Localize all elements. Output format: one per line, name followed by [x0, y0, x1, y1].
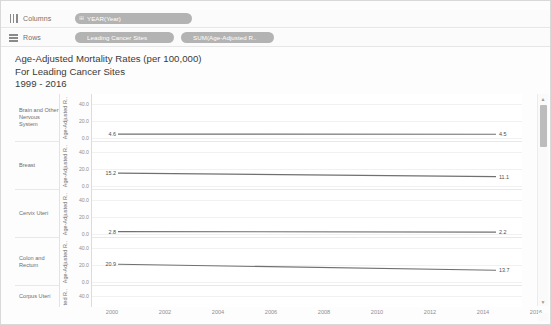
- pane-brain[interactable]: 4.6 4.5: [92, 94, 522, 142]
- row-header-breast[interactable]: Breast: [15, 142, 59, 190]
- row-header-brain-label: Brain and Other Nervous System: [19, 107, 59, 128]
- columns-shelf[interactable]: Columns ⊞ YEAR(Year): [1, 10, 550, 28]
- title-line-2: For Leading Cancer Sites: [15, 66, 202, 79]
- scrollbar-corner: [538, 313, 548, 321]
- data-label-brain-end: 4.5: [499, 131, 507, 137]
- x-tick-2012: 2012: [424, 309, 436, 315]
- y-axis-title-colon: Age-Adjusted R..: [59, 238, 71, 286]
- x-tick-2006: 2006: [265, 309, 277, 315]
- y-tick-corpus-40: 40.0: [79, 293, 89, 299]
- y-tick-breast-0: 0.0: [82, 183, 89, 189]
- chart-area: Brain and Other Nervous System Breast Ce…: [15, 94, 537, 307]
- rows-icon: [9, 33, 18, 42]
- data-label-brain-start: 4.6: [94, 131, 116, 137]
- y-axis-title-cervix: Age-Adjusted R..: [59, 190, 71, 238]
- columns-icon: [9, 14, 18, 23]
- pill-expand-icon: ⊞: [79, 13, 84, 24]
- pane-breast[interactable]: 15.2 11.1: [92, 142, 522, 190]
- line-series-cervix: [92, 190, 522, 238]
- rows-shelf-label: Rows: [23, 34, 75, 41]
- x-tick-2010: 2010: [371, 309, 383, 315]
- data-label-breast-start: 15.2: [92, 170, 116, 176]
- x-tick-2000: 2000: [106, 309, 118, 315]
- row-header-cervix-label: Cervix Uteri: [19, 210, 48, 217]
- line-series-breast: [92, 142, 522, 190]
- row-header-colon-label: Colon and Rectum: [19, 255, 59, 269]
- y-tick-cervix-0: 0.0: [82, 231, 89, 237]
- x-tick-2004: 2004: [212, 309, 224, 315]
- pane-corpus[interactable]: [92, 286, 522, 307]
- row-header-breast-label: Breast: [19, 162, 35, 169]
- y-axis-title-cervix-label: Age-Adjusted R..: [62, 193, 68, 235]
- chart-panes: 4.6 4.5 15.2 11.1 2.8: [91, 94, 522, 307]
- rows-shelf[interactable]: Rows Leading Cancer Sites SUM(Age-Adjust…: [1, 29, 550, 47]
- pane-cervix[interactable]: 2.8 2.2: [92, 190, 522, 238]
- y-tick-breast-40: 40.0: [79, 149, 89, 155]
- pill-year-label: YEAR(Year): [87, 15, 121, 22]
- y-axis-title-corpus-label: ted R..: [62, 288, 68, 305]
- row-header-cervix[interactable]: Cervix Uteri: [15, 190, 59, 238]
- y-tick-cervix-20: 20.0: [79, 214, 89, 220]
- y-tick-breast-20: 20.0: [79, 166, 89, 172]
- vertical-scrollbar[interactable]: ▲ ▼: [537, 94, 548, 306]
- y-tick-brain-0: 0.0: [82, 135, 89, 141]
- y-axis-titles: Age-Adjusted R.. Age-Adjusted R.. Age-Ad…: [59, 94, 71, 307]
- y-axis-title-corpus: ted R..: [59, 286, 71, 307]
- gridline: [92, 296, 522, 297]
- pill-year[interactable]: ⊞ YEAR(Year): [75, 13, 192, 24]
- pill-leading-cancer-sites[interactable]: Leading Cancer Sites: [75, 32, 174, 43]
- data-label-colon-end: 13.7: [499, 267, 510, 273]
- title-line-3: 1999 - 2016: [15, 78, 202, 91]
- row-headers: Brain and Other Nervous System Breast Ce…: [15, 94, 60, 307]
- y-tick-colon-0: 0.0: [82, 279, 89, 285]
- pill-leading-cancer-sites-label: Leading Cancer Sites: [87, 34, 147, 41]
- row-header-corpus-label: Corpus Uteri: [19, 293, 50, 300]
- y-tick-colon-20: 20.0: [79, 262, 89, 268]
- x-tick-2008: 2008: [318, 309, 330, 315]
- pane-colon[interactable]: 20.9 13.7: [92, 238, 522, 286]
- row-header-corpus[interactable]: Corpus Uteri: [15, 286, 59, 307]
- line-series-brain: [92, 94, 522, 142]
- x-tick-2014: 2014: [477, 309, 489, 315]
- row-header-brain[interactable]: Brain and Other Nervous System: [15, 94, 59, 142]
- data-label-colon-start: 20.9: [92, 261, 116, 267]
- y-axis-title-colon-label: Age-Adjusted R..: [62, 241, 68, 283]
- y-tick-brain-40: 40.0: [79, 101, 89, 107]
- y-axis-title-breast: Age-Adjusted R..: [59, 142, 71, 190]
- line-series-colon: [92, 238, 522, 286]
- y-tick-colon-40: 40.0: [79, 245, 89, 251]
- x-axis: 2000 2002 2004 2006 2008 2010 2012 2014 …: [91, 307, 537, 321]
- y-tick-cervix-40: 40.0: [79, 197, 89, 203]
- tableau-worksheet: Columns ⊞ YEAR(Year) Rows Leading Cancer…: [0, 0, 551, 325]
- columns-shelf-label: Columns: [23, 15, 75, 22]
- title-line-1: Age-Adjusted Mortality Rates (per 100,00…: [15, 53, 202, 66]
- pill-sum-age-adjusted-rate[interactable]: SUM(Age-Adjusted R..: [181, 32, 274, 43]
- scroll-up-arrow-icon[interactable]: ▲: [538, 94, 548, 103]
- y-axis-title-brain: Age-Adjusted R..: [59, 94, 71, 142]
- y-axis-title-breast-label: Age-Adjusted R..: [62, 145, 68, 187]
- x-tick-2002: 2002: [159, 309, 171, 315]
- y-tick-brain-20: 20.0: [79, 118, 89, 124]
- scroll-down-arrow-icon[interactable]: ▼: [538, 297, 548, 306]
- scrollbar-thumb[interactable]: [540, 105, 547, 147]
- data-label-cervix-start: 2.8: [94, 229, 116, 235]
- data-label-cervix-end: 2.2: [499, 229, 507, 235]
- y-tick-labels: 40.0 20.0 0.0 40.0 20.0 0.0 40.0 20.0 0.…: [71, 94, 91, 307]
- row-header-colon[interactable]: Colon and Rectum: [15, 238, 59, 286]
- pill-sum-age-adjusted-rate-label: SUM(Age-Adjusted R..: [193, 34, 257, 41]
- y-axis-title-brain-label: Age-Adjusted R..: [62, 97, 68, 139]
- worksheet-title: Age-Adjusted Mortality Rates (per 100,00…: [15, 53, 202, 91]
- data-label-breast-end: 11.1: [499, 174, 509, 180]
